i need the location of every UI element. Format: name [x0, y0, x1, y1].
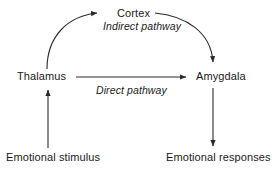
pathway-diagram: Cortex Thalamus Amygdala Emotional stimu… — [0, 0, 280, 172]
node-emotional-stimulus: Emotional stimulus — [6, 151, 100, 164]
edge-label-indirect-pathway: Indirect pathway — [103, 20, 181, 32]
node-cortex: Cortex — [117, 7, 150, 20]
edge-label-direct-pathway: Direct pathway — [96, 84, 167, 96]
edge-thalamus-to-cortex — [47, 13, 97, 69]
node-emotional-responses: Emotional responses — [166, 151, 271, 164]
node-thalamus: Thalamus — [17, 70, 66, 83]
node-amygdala: Amygdala — [196, 70, 246, 83]
